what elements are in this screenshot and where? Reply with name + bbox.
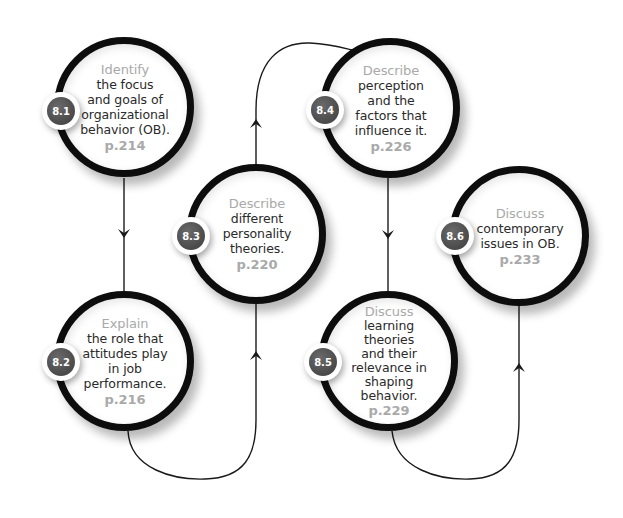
objective-badge-8-2: 8.2 — [42, 343, 80, 381]
page-reference: p.233 — [500, 252, 541, 267]
learning-objectives-diagram: Identify the focus and goals of organiza… — [0, 0, 623, 518]
objective-badge-8-5: 8.5 — [304, 343, 342, 381]
page-reference: p.214 — [105, 138, 146, 153]
objective-verb: Discuss — [365, 305, 414, 319]
objective-text: the focus and goals of organizational be… — [80, 77, 170, 137]
objective-text: contemporary issues in OB. — [477, 221, 564, 251]
page-reference: p.226 — [371, 139, 412, 154]
objective-text: different personality theories. — [223, 211, 292, 256]
objective-number: 8.5 — [309, 348, 337, 376]
objective-verb: Discuss — [496, 206, 545, 221]
objective-verb: Explain — [102, 316, 149, 331]
objective-text: learning theories and their relevance in… — [351, 319, 426, 403]
objective-number: 8.1 — [47, 97, 75, 125]
page-reference: p.216 — [105, 392, 146, 407]
page-reference: p.220 — [237, 257, 278, 272]
objective-badge-8-1: 8.1 — [42, 92, 80, 130]
objective-text: perception and the factors that influenc… — [355, 78, 427, 138]
objective-number: 8.3 — [177, 222, 205, 250]
objective-badge-8-6: 8.6 — [436, 217, 474, 255]
objective-verb: Describe — [363, 63, 419, 78]
objective-number: 8.6 — [441, 222, 469, 250]
objective-verb: Describe — [229, 196, 285, 211]
objective-text: the role that attitudes play in job perf… — [83, 331, 168, 391]
page-reference: p.229 — [369, 404, 410, 418]
objective-badge-8-3: 8.3 — [172, 217, 210, 255]
objective-number: 8.4 — [311, 96, 339, 124]
objective-number: 8.2 — [47, 348, 75, 376]
objective-badge-8-4: 8.4 — [306, 91, 344, 129]
objective-verb: Identify — [101, 62, 149, 77]
